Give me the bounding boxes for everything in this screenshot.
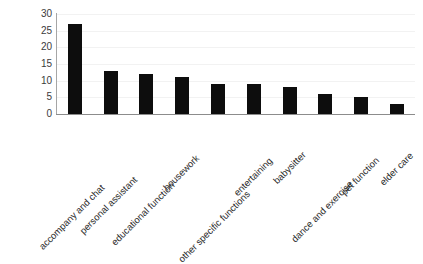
bar bbox=[354, 97, 368, 114]
bar bbox=[175, 77, 189, 114]
x-tick-label-text: babysitter bbox=[271, 149, 308, 186]
bar-slot bbox=[379, 14, 415, 114]
x-label-slot: pet function bbox=[343, 116, 379, 225]
bars-container bbox=[57, 14, 415, 114]
y-axis-tick-labels: 30 25 20 15 10 5 0 bbox=[28, 14, 52, 114]
bar bbox=[318, 94, 332, 114]
x-label-slot: entertaining bbox=[236, 116, 272, 225]
bar-slot bbox=[200, 14, 236, 114]
y-tick-label: 30 bbox=[30, 9, 52, 19]
bar-slot bbox=[164, 14, 200, 114]
bar bbox=[247, 84, 261, 114]
x-tick-label: elder care bbox=[407, 120, 423, 158]
y-tick-label: 10 bbox=[30, 76, 52, 86]
x-tick-label-text: entertaining bbox=[231, 155, 274, 198]
plot-area bbox=[57, 14, 415, 114]
x-label-slot: accompany and chat bbox=[57, 116, 93, 225]
x-label-slot: dance and exercise bbox=[308, 116, 344, 225]
bar bbox=[211, 84, 225, 114]
x-label-slot: personal assistant bbox=[93, 116, 129, 225]
x-label-slot: elder care bbox=[379, 116, 415, 225]
bar bbox=[283, 87, 297, 114]
x-label-slot: educational function bbox=[129, 116, 165, 225]
x-axis-category-labels: accompany and chatpersonal assistanteduc… bbox=[57, 116, 415, 225]
bar bbox=[68, 24, 82, 114]
bar-slot bbox=[236, 14, 272, 114]
x-label-slot: housework bbox=[164, 116, 200, 225]
x-label-slot: babysitter bbox=[272, 116, 308, 225]
y-tick-label: 25 bbox=[30, 26, 52, 36]
bar bbox=[390, 104, 404, 114]
x-label-slot: other specific functions bbox=[200, 116, 236, 225]
bar-slot bbox=[308, 14, 344, 114]
x-tick-label-text: elder care bbox=[378, 150, 416, 188]
x-axis-line bbox=[56, 114, 415, 115]
bar-slot bbox=[57, 14, 93, 114]
bar bbox=[104, 71, 118, 114]
x-tick-label-text: housework bbox=[161, 152, 201, 192]
bar-slot bbox=[93, 14, 129, 114]
bar-slot bbox=[129, 14, 165, 114]
x-tick-label-text: pet function bbox=[339, 155, 382, 198]
bar bbox=[139, 74, 153, 114]
bar-slot bbox=[272, 14, 308, 114]
y-tick-label: 5 bbox=[30, 92, 52, 102]
y-tick-label: 15 bbox=[30, 59, 52, 69]
y-tick-label: 20 bbox=[30, 42, 52, 52]
y-tick-label: 0 bbox=[30, 109, 52, 119]
bar-slot bbox=[343, 14, 379, 114]
